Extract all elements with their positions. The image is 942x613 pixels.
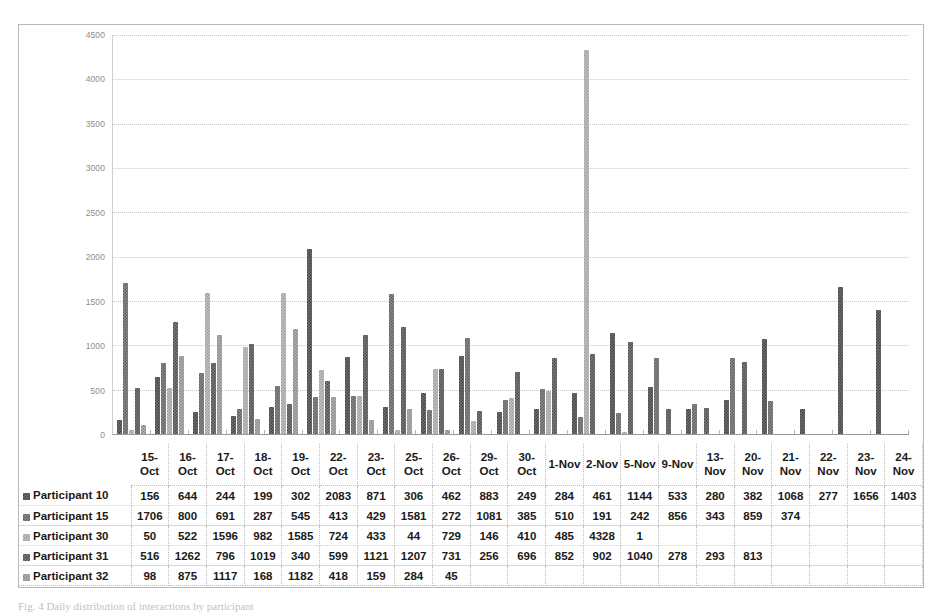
table-cell: 156 (131, 486, 169, 506)
legend-swatch-icon (23, 493, 30, 500)
column-header-line: 15- (131, 450, 168, 464)
table-row: Participant 1517068006912875454134291581… (19, 506, 923, 526)
legend-swatch-icon (23, 574, 30, 581)
table-cell (734, 566, 772, 586)
table-body: Participant 1015664424419930220838713064… (19, 486, 923, 586)
table-row: Participant 3298875111716811824181592844… (19, 566, 923, 586)
table-cell (772, 546, 810, 566)
table-head: 15-Oct16-Oct17-Oct18-Oct19-Oct22-Oct23-O… (19, 443, 923, 486)
table-cell (809, 506, 847, 526)
table-cell (847, 566, 885, 586)
table-cell: 1403 (885, 486, 923, 506)
bar (243, 347, 248, 434)
bar-group (189, 35, 227, 434)
column-header: 22-Nov (809, 443, 847, 486)
bar (584, 50, 589, 434)
bar (293, 329, 298, 434)
table-cell (772, 526, 810, 546)
table-cell (659, 566, 697, 586)
table-cell: 1 (621, 526, 659, 546)
column-header-line: 1-Nov (546, 457, 583, 471)
column-header-line: 19- (282, 450, 319, 464)
table-cell: 796 (206, 546, 244, 566)
table-cell: 385 (508, 506, 546, 526)
table-cell: 50 (131, 526, 169, 546)
bar (628, 342, 633, 434)
column-header: 23-Oct (357, 443, 395, 486)
bar (433, 369, 438, 434)
table-cell: 724 (319, 526, 357, 546)
table-cell: 1585 (282, 526, 320, 546)
table-cell: 533 (659, 486, 697, 506)
table-cell: 856 (659, 506, 697, 526)
table-cell (508, 566, 546, 586)
bar (590, 354, 595, 434)
column-header: 2-Nov (583, 443, 621, 486)
table-cell (696, 566, 734, 586)
bar (179, 356, 184, 434)
bar (730, 358, 735, 434)
column-header: 17-Oct (206, 443, 244, 486)
bar (363, 335, 368, 434)
table-cell (885, 566, 923, 586)
series-row-header: Participant 30 (19, 526, 131, 546)
table-cell: 382 (734, 486, 772, 506)
column-header-line: Oct (131, 464, 168, 478)
table-cell: 306 (395, 486, 433, 506)
bar (534, 409, 539, 434)
bar (742, 362, 747, 434)
bar (135, 388, 140, 434)
table-cell: 418 (319, 566, 357, 586)
series-row-header: Participant 15 (19, 506, 131, 526)
bar (648, 387, 653, 434)
table-cell: 433 (357, 526, 395, 546)
bar (692, 404, 697, 434)
table-cell: 277 (809, 486, 847, 506)
bar (287, 404, 292, 434)
bar (269, 407, 274, 434)
bar (616, 413, 621, 434)
bar-group (340, 35, 378, 434)
table-cell (847, 546, 885, 566)
table-cell: 485 (546, 526, 584, 546)
y-axis-tick-label: 4500 (86, 30, 105, 40)
column-header-line: Oct (207, 464, 244, 478)
series-name: Participant 10 (33, 489, 108, 501)
table-cell (885, 526, 923, 546)
table-cell: 249 (508, 486, 546, 506)
table-cell: 343 (696, 506, 734, 526)
table-cell: 284 (546, 486, 584, 506)
column-header-line: 16- (169, 450, 206, 464)
table-cell: 242 (621, 506, 659, 526)
table-cell (659, 526, 697, 546)
bar-group (416, 35, 454, 434)
table-cell: 516 (131, 546, 169, 566)
bar-group (568, 35, 606, 434)
bar (686, 409, 691, 434)
column-header: 23-Nov (847, 443, 885, 486)
table-cell (809, 526, 847, 546)
table-cell: 1117 (206, 566, 244, 586)
bar (173, 322, 178, 434)
column-header-line: 9-Nov (659, 457, 696, 471)
table-cell: 44 (395, 526, 433, 546)
bar (129, 430, 134, 434)
column-header-line: Nov (697, 464, 734, 478)
table-cell (583, 566, 621, 586)
bar (167, 388, 172, 434)
table-cell: 429 (357, 506, 395, 526)
column-header-line: 30- (508, 450, 545, 464)
bar-group (795, 35, 833, 434)
table-cell (621, 566, 659, 586)
column-header-line: 20- (735, 450, 772, 464)
bar-group (606, 35, 644, 434)
column-header: 19-Oct (282, 443, 320, 486)
bar (281, 293, 286, 434)
table-cell: 800 (169, 506, 207, 526)
bar (395, 430, 400, 434)
column-header-line: Oct (282, 464, 319, 478)
bar-group (871, 35, 909, 434)
table-cell (546, 566, 584, 586)
table-cell: 1182 (282, 566, 320, 586)
bar-group (720, 35, 758, 434)
